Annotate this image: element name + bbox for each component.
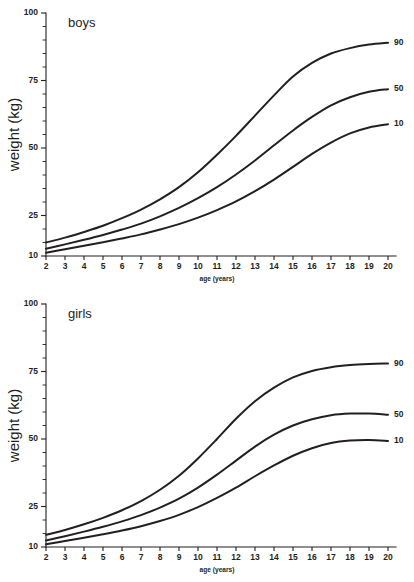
x-axis-tick-label: 9 <box>177 552 182 562</box>
x-axis-tick-label: 7 <box>139 552 144 562</box>
x-axis-tick-label: 15 <box>288 552 298 562</box>
x-axis-tick-label: 9 <box>177 261 182 271</box>
percentile-curve-90 <box>46 43 388 243</box>
x-axis-tick-label: 6 <box>120 552 125 562</box>
x-axis-title: age (years) <box>200 275 235 283</box>
x-axis-tick-label: 8 <box>158 261 163 271</box>
chart-svg-boys: 1025507510023456789101112131415161718192… <box>0 0 414 291</box>
percentile-curve-50 <box>46 413 388 540</box>
x-axis-tick-label: 10 <box>193 552 203 562</box>
x-axis-tick-label: 18 <box>345 261 355 271</box>
percentile-curve-label-10: 10 <box>394 435 404 445</box>
x-axis-tick-label: 2 <box>44 261 49 271</box>
x-axis-tick-label: 14 <box>269 261 279 271</box>
x-axis-title: age (years) <box>200 566 235 574</box>
y-axis-tick-label: 75 <box>29 366 39 376</box>
x-axis-tick-label: 3 <box>63 552 68 562</box>
percentile-curve-50 <box>46 89 388 249</box>
x-axis-tick-label: 11 <box>213 261 222 271</box>
x-axis-tick-label: 19 <box>364 552 374 562</box>
percentile-curve-10 <box>46 124 388 253</box>
percentile-curve-label-90: 90 <box>394 358 404 368</box>
percentile-curve-label-90: 90 <box>394 37 404 47</box>
x-axis-tick-label: 8 <box>158 552 163 562</box>
x-axis-tick-label: 5 <box>101 261 106 271</box>
y-axis-tick-label: 10 <box>29 541 39 551</box>
x-axis-tick-label: 17 <box>326 261 336 271</box>
panel-title: girls <box>68 306 92 321</box>
y-axis-tick-label: 25 <box>29 210 39 220</box>
x-axis-tick-label: 4 <box>82 261 87 271</box>
x-axis-tick-label: 20 <box>383 261 393 271</box>
x-axis-tick-label: 15 <box>288 261 298 271</box>
chart-panel-girls: 1025507510023456789101112131415161718192… <box>0 291 414 582</box>
chart-panel-boys: 1025507510023456789101112131415161718192… <box>0 0 414 291</box>
y-axis-tick-label: 75 <box>29 75 39 85</box>
x-axis-tick-label: 4 <box>82 552 87 562</box>
x-axis-tick-label: 10 <box>193 261 203 271</box>
x-axis-tick-label: 12 <box>231 552 241 562</box>
x-axis-tick-label: 17 <box>326 552 336 562</box>
growth-chart-figure: 1025507510023456789101112131415161718192… <box>0 0 414 582</box>
percentile-curve-90 <box>46 363 388 534</box>
x-axis-tick-label: 16 <box>307 261 317 271</box>
y-axis-tick-label: 50 <box>29 433 39 443</box>
y-axis-title: weight (kg) <box>5 389 22 463</box>
x-axis-tick-label: 6 <box>120 261 125 271</box>
x-axis-tick-label: 13 <box>250 261 260 271</box>
y-axis-tick-label: 25 <box>29 501 39 511</box>
x-axis-tick-label: 13 <box>250 552 260 562</box>
x-axis-tick-label: 5 <box>101 552 106 562</box>
y-axis-tick-label: 10 <box>29 250 39 260</box>
x-axis-tick-label: 16 <box>307 552 317 562</box>
y-axis-tick-label: 50 <box>29 142 39 152</box>
x-axis-tick-label: 20 <box>383 552 393 562</box>
x-axis-tick-label: 14 <box>269 552 279 562</box>
x-axis-tick-label: 7 <box>139 261 144 271</box>
panel-title: boys <box>68 15 96 30</box>
percentile-curve-label-10: 10 <box>394 118 404 128</box>
x-axis-tick-label: 3 <box>63 261 68 271</box>
percentile-curve-label-50: 50 <box>394 409 404 419</box>
y-axis-tick-label: 100 <box>24 298 38 308</box>
x-axis-tick-label: 12 <box>231 261 241 271</box>
y-axis-tick-label: 100 <box>24 7 38 17</box>
y-axis-title: weight (kg) <box>5 98 22 172</box>
x-axis-tick-label: 18 <box>345 552 355 562</box>
percentile-curve-label-50: 50 <box>394 83 404 93</box>
x-axis-tick-label: 19 <box>364 261 374 271</box>
x-axis-tick-label: 2 <box>44 552 49 562</box>
x-axis-tick-label: 11 <box>213 552 222 562</box>
chart-svg-girls: 1025507510023456789101112131415161718192… <box>0 291 414 582</box>
